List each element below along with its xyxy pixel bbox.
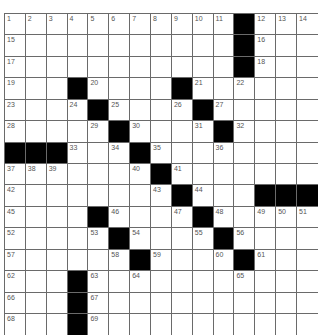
- grid-cell[interactable]: [108, 270, 130, 292]
- grid-cell[interactable]: [150, 313, 172, 335]
- grid-cell[interactable]: [87, 142, 109, 164]
- grid-cell[interactable]: [296, 99, 318, 121]
- grid-cell[interactable]: [25, 34, 47, 56]
- grid-cell[interactable]: [108, 34, 130, 56]
- grid-cell[interactable]: 62: [4, 270, 26, 292]
- grid-cell[interactable]: 4: [67, 13, 89, 35]
- grid-cell[interactable]: [46, 292, 68, 314]
- grid-cell[interactable]: 52: [4, 227, 26, 249]
- grid-cell[interactable]: 68: [4, 313, 26, 335]
- grid-cell[interactable]: [46, 120, 68, 142]
- grid-cell[interactable]: 54: [129, 227, 151, 249]
- grid-cell[interactable]: [233, 163, 255, 185]
- grid-cell[interactable]: [87, 249, 109, 271]
- grid-cell[interactable]: [25, 270, 47, 292]
- grid-cell[interactable]: [275, 292, 297, 314]
- grid-cell[interactable]: [192, 142, 214, 164]
- grid-cell[interactable]: 14: [296, 13, 318, 35]
- grid-cell[interactable]: [25, 77, 47, 99]
- grid-cell[interactable]: 67: [87, 292, 109, 314]
- grid-cell[interactable]: 43: [150, 184, 172, 206]
- grid-cell[interactable]: [25, 313, 47, 335]
- grid-cell[interactable]: 41: [171, 163, 193, 185]
- grid-cell[interactable]: [192, 270, 214, 292]
- grid-cell[interactable]: [46, 313, 68, 335]
- grid-cell[interactable]: 48: [213, 206, 235, 228]
- grid-cell[interactable]: [150, 227, 172, 249]
- grid-cell[interactable]: [296, 249, 318, 271]
- grid-cell[interactable]: [129, 184, 151, 206]
- grid-cell[interactable]: 8: [150, 13, 172, 35]
- grid-cell[interactable]: [275, 163, 297, 185]
- grid-cell[interactable]: 51: [296, 206, 318, 228]
- grid-cell[interactable]: 11: [213, 13, 235, 35]
- grid-cell[interactable]: [171, 270, 193, 292]
- grid-cell[interactable]: 53: [87, 227, 109, 249]
- grid-cell[interactable]: [192, 56, 214, 78]
- grid-cell[interactable]: [87, 34, 109, 56]
- grid-cell[interactable]: 26: [171, 99, 193, 121]
- grid-cell[interactable]: 30: [129, 120, 151, 142]
- grid-cell[interactable]: [171, 292, 193, 314]
- grid-cell[interactable]: [275, 249, 297, 271]
- grid-cell[interactable]: [192, 313, 214, 335]
- grid-cell[interactable]: [67, 34, 89, 56]
- grid-cell[interactable]: 21: [192, 77, 214, 99]
- grid-cell[interactable]: [171, 56, 193, 78]
- grid-cell[interactable]: [254, 99, 276, 121]
- grid-cell[interactable]: 42: [4, 184, 26, 206]
- grid-cell[interactable]: [46, 227, 68, 249]
- grid-cell[interactable]: 61: [254, 249, 276, 271]
- grid-cell[interactable]: [275, 56, 297, 78]
- grid-cell[interactable]: [275, 142, 297, 164]
- grid-cell[interactable]: 34: [108, 142, 130, 164]
- grid-cell[interactable]: [171, 34, 193, 56]
- grid-cell[interactable]: [108, 56, 130, 78]
- grid-cell[interactable]: 17: [4, 56, 26, 78]
- grid-cell[interactable]: [296, 163, 318, 185]
- grid-cell[interactable]: [46, 249, 68, 271]
- grid-cell[interactable]: [213, 34, 235, 56]
- grid-cell[interactable]: [25, 249, 47, 271]
- grid-cell[interactable]: 37: [4, 163, 26, 185]
- grid-cell[interactable]: 46: [108, 206, 130, 228]
- grid-cell[interactable]: [150, 292, 172, 314]
- grid-cell[interactable]: 15: [4, 34, 26, 56]
- grid-cell[interactable]: [275, 313, 297, 335]
- grid-cell[interactable]: [108, 313, 130, 335]
- grid-cell[interactable]: 32: [233, 120, 255, 142]
- grid-cell[interactable]: [108, 184, 130, 206]
- grid-cell[interactable]: 18: [254, 56, 276, 78]
- grid-cell[interactable]: [25, 99, 47, 121]
- grid-cell[interactable]: 12: [254, 13, 276, 35]
- grid-cell[interactable]: [296, 227, 318, 249]
- grid-cell[interactable]: [46, 206, 68, 228]
- grid-cell[interactable]: [296, 34, 318, 56]
- grid-cell[interactable]: [25, 184, 47, 206]
- grid-cell[interactable]: [213, 77, 235, 99]
- grid-cell[interactable]: 20: [87, 77, 109, 99]
- grid-cell[interactable]: [171, 142, 193, 164]
- grid-cell[interactable]: [233, 206, 255, 228]
- grid-cell[interactable]: [275, 120, 297, 142]
- grid-cell[interactable]: [233, 99, 255, 121]
- grid-cell[interactable]: [275, 227, 297, 249]
- grid-cell[interactable]: 69: [87, 313, 109, 335]
- grid-cell[interactable]: [129, 34, 151, 56]
- grid-cell[interactable]: [150, 120, 172, 142]
- grid-cell[interactable]: [296, 56, 318, 78]
- grid-cell[interactable]: [46, 34, 68, 56]
- grid-cell[interactable]: [150, 270, 172, 292]
- grid-cell[interactable]: [254, 142, 276, 164]
- grid-cell[interactable]: [275, 34, 297, 56]
- grid-cell[interactable]: 27: [213, 99, 235, 121]
- grid-cell[interactable]: 38: [25, 163, 47, 185]
- grid-cell[interactable]: [87, 163, 109, 185]
- grid-cell[interactable]: [129, 77, 151, 99]
- grid-cell[interactable]: [67, 184, 89, 206]
- grid-cell[interactable]: [254, 313, 276, 335]
- grid-cell[interactable]: 5: [87, 13, 109, 35]
- grid-cell[interactable]: [192, 292, 214, 314]
- grid-cell[interactable]: [296, 270, 318, 292]
- grid-cell[interactable]: [25, 56, 47, 78]
